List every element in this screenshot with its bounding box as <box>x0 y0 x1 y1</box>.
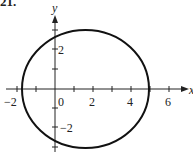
y-tick-label-2: 2 <box>58 43 64 57</box>
ellipse-graph: y x −2 0 2 4 6 2 −2 <box>0 0 193 157</box>
x-tick-label-neg2: −2 <box>4 95 17 109</box>
x-tick-label-4: 4 <box>127 95 133 109</box>
x-axis-label: x <box>188 83 193 97</box>
x-tick-label-6: 6 <box>165 95 171 109</box>
y-axis-arrow-icon <box>52 15 58 23</box>
y-tick-label-neg2: −2 <box>60 121 73 135</box>
x-tick-label-2: 2 <box>89 95 95 109</box>
x-tick-label-0: 0 <box>58 95 64 109</box>
y-axis-label: y <box>51 1 58 15</box>
x-axis <box>6 86 189 92</box>
x-axis-arrow-icon <box>181 86 189 92</box>
